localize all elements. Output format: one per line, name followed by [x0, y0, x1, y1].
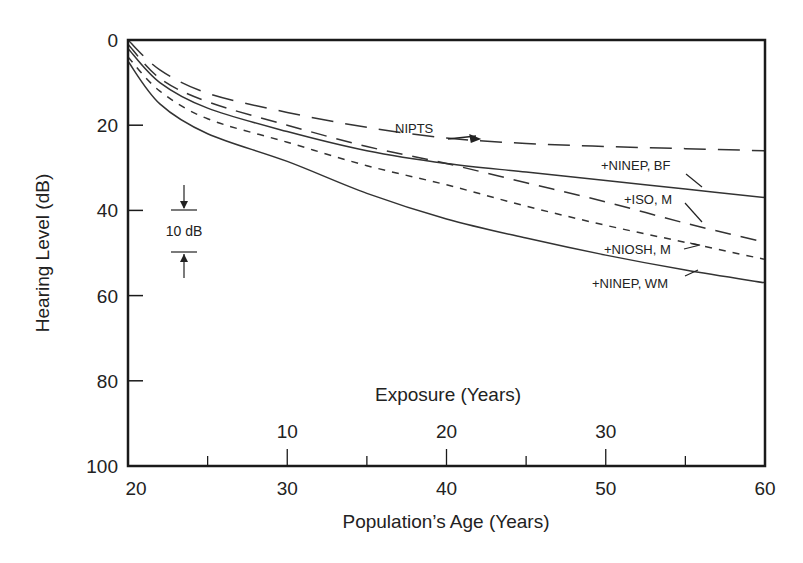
y-tick-label: 20 [97, 115, 118, 136]
label-niosh-m: +NIOSH, M [604, 242, 671, 257]
label-ninep-bf: +NINEP, BF [601, 158, 671, 173]
label-ninep-wm: +NINEP, WM [592, 276, 668, 291]
scale-bar-label: 10 dB [166, 223, 203, 239]
leader-niosh-m [684, 243, 700, 249]
y-tick-label: 40 [97, 200, 118, 221]
curve-nipts [128, 40, 765, 151]
scale-bar-10db: 10 dB [166, 185, 203, 278]
x-tick-label: 30 [277, 478, 298, 499]
label-iso-m: +ISO, M [624, 192, 672, 207]
y-tick-label: 100 [86, 456, 118, 477]
y-tick-label: 0 [107, 30, 118, 51]
exposure-tick-label: 30 [595, 421, 616, 442]
label-nipts: NIPTS [395, 121, 434, 136]
x-tick-label: 40 [436, 478, 457, 499]
y-tick-label: 80 [97, 371, 118, 392]
exposure-tick-label: 10 [277, 421, 298, 442]
exposure-tick-label: 20 [436, 421, 457, 442]
hearing-level-chart: 020406080100 2030405060 102030 Hearing L… [0, 0, 803, 563]
curve-iso-m [128, 44, 765, 242]
arrow-up-icon [180, 254, 188, 262]
x-axis-title: Population’s Age (Years) [342, 511, 549, 532]
leader-iso-m [685, 203, 702, 222]
x-tick-label: 60 [754, 478, 775, 499]
exposure-axis-title: Exposure (Years) [375, 384, 521, 405]
nipts-arrowhead-icon [469, 132, 481, 143]
x-tick-label: 50 [595, 478, 616, 499]
leader-ninep-bf [686, 174, 702, 187]
exposure-axis-ticks: 102030 [277, 421, 617, 466]
x-axis-ticks: 2030405060 [125, 456, 775, 499]
curve-ninep-bf [128, 49, 765, 198]
x-tick-label: 20 [125, 478, 146, 499]
arrow-down-icon [180, 201, 188, 209]
y-tick-label: 60 [97, 286, 118, 307]
y-axis-ticks: 020406080100 [86, 30, 143, 477]
y-axis-title: Hearing Level (dB) [32, 174, 53, 332]
